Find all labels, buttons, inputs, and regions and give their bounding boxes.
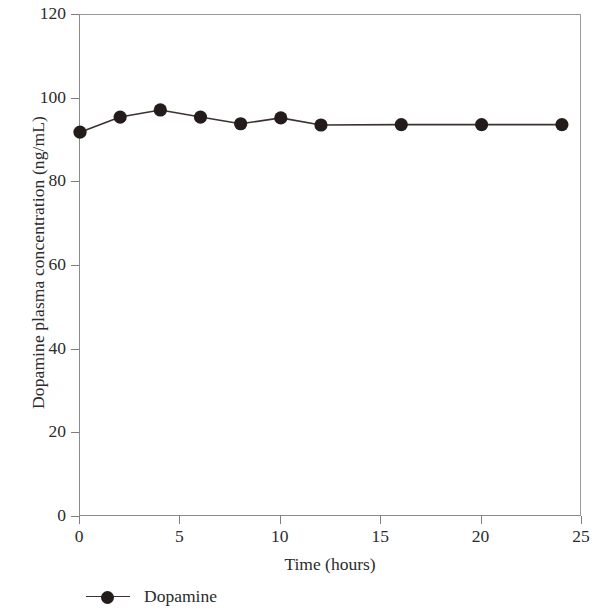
y-axis-tick (71, 516, 79, 517)
legend-marker-icon (86, 588, 130, 606)
y-axis-tick (71, 181, 79, 182)
chart-legend: Dopamine (79, 588, 217, 606)
y-axis-tick (71, 349, 79, 350)
y-axis-tick (71, 14, 79, 15)
y-axis-tick (71, 98, 79, 99)
data-point-marker (73, 126, 86, 139)
data-point-marker (395, 118, 408, 131)
y-axis-tick-label: 80 (6, 172, 66, 190)
x-axis-tick-label: 0 (49, 528, 109, 546)
x-axis-tick (380, 516, 381, 524)
x-axis-tick (179, 516, 180, 524)
x-axis-tick (280, 516, 281, 524)
data-series-svg (80, 15, 582, 517)
y-axis-tick (71, 265, 79, 266)
x-axis-tick (79, 516, 80, 524)
x-axis-tick (581, 516, 582, 524)
data-point-marker (234, 117, 247, 130)
x-axis-tick (481, 516, 482, 524)
y-axis-tick-label: 100 (6, 89, 66, 107)
y-axis-tick-label: 120 (6, 5, 66, 23)
data-point-marker (194, 110, 207, 123)
x-axis-tick-label: 15 (350, 528, 410, 546)
legend-circle-icon (101, 591, 114, 604)
data-point-marker (274, 111, 287, 124)
data-point-marker (475, 118, 488, 131)
x-axis-title: Time (hours) (79, 554, 581, 575)
data-point-marker (314, 118, 327, 131)
data-point-marker (555, 118, 568, 131)
x-axis-tick-label: 10 (250, 528, 310, 546)
series-markers-dopamine (73, 103, 568, 138)
y-axis-tick-label: 0 (6, 507, 66, 525)
legend-item-label: Dopamine (144, 588, 217, 606)
chart-figure: Dopamine plasma concentration (ng/mL) 02… (0, 0, 595, 616)
data-point-marker (114, 110, 127, 123)
y-axis-tick-label: 20 (6, 423, 66, 441)
y-axis-tick-label: 40 (6, 340, 66, 358)
y-axis-tick (71, 432, 79, 433)
plot-area (79, 14, 581, 516)
x-axis-tick-label: 5 (149, 528, 209, 546)
x-axis-tick-label: 20 (451, 528, 511, 546)
legend-item-dopamine: Dopamine (79, 588, 217, 606)
x-axis-tick-label: 25 (551, 528, 595, 546)
y-axis-tick-label: 60 (6, 256, 66, 274)
data-point-marker (154, 103, 167, 116)
